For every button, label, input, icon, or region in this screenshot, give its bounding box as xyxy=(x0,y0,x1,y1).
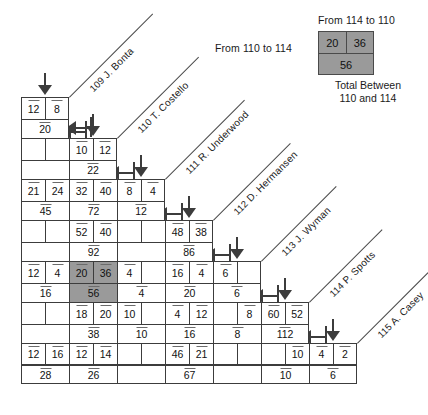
matrix-band: 524048389286 xyxy=(21,220,357,261)
matrix-cell-value: 20 xyxy=(93,302,117,324)
value-tick-mark xyxy=(100,264,111,265)
matrix-cell-value: 46 xyxy=(165,343,189,365)
value-tick-mark xyxy=(100,223,111,224)
matrix-cell-value: 10 xyxy=(69,138,93,160)
value-tick-mark xyxy=(136,286,147,287)
matrix-cell-value xyxy=(141,261,165,283)
matrix-band: 2124324084457212 xyxy=(21,179,357,220)
matrix-band-total-row: 457212 xyxy=(21,201,357,220)
matrix-cell-value: 12 xyxy=(93,138,117,160)
value-tick-mark xyxy=(28,346,39,347)
value-tick-mark xyxy=(88,327,99,328)
matrix-cell-total: 6 xyxy=(309,365,357,384)
matrix-cell-value xyxy=(21,302,45,324)
matrix-band-total-row: 22 xyxy=(21,160,357,179)
matrix-cell-value: 20 xyxy=(69,261,93,283)
matrix-band-total-row: 20 xyxy=(21,119,357,138)
matrix-cell-total: 92 xyxy=(69,242,117,261)
value-tick-mark xyxy=(52,264,63,265)
matrix-cell-value: 40 xyxy=(93,220,117,242)
matrix-band: 1216121446211042282667106 xyxy=(21,343,357,384)
value-tick-mark xyxy=(280,368,291,369)
value-tick-mark xyxy=(184,286,195,287)
matrix-cell-value: 40 xyxy=(93,179,117,201)
matrix-cell-total: 22 xyxy=(69,160,117,179)
legend-cell-b: 36 xyxy=(347,32,374,54)
value-tick-mark xyxy=(172,305,183,306)
legend-top-row: 20 36 xyxy=(319,32,373,54)
legend-bottom-row: 56 xyxy=(319,54,373,76)
value-tick-mark xyxy=(88,204,99,205)
value-tick-mark xyxy=(280,327,291,328)
matrix-cell-value: 60 xyxy=(261,302,285,324)
matrix-cell-total: 20 xyxy=(21,119,69,138)
value-tick-mark xyxy=(136,327,147,328)
matrix-cell-value: 4 xyxy=(45,261,69,283)
matrix-cell-value xyxy=(117,343,141,365)
matrix-cell-total: 6 xyxy=(213,283,261,302)
value-tick-mark xyxy=(292,346,303,347)
value-tick-mark xyxy=(148,182,159,183)
matrix-cell-value: 4 xyxy=(141,179,165,201)
matrix-cell-value: 4 xyxy=(309,343,333,365)
value-tick-mark xyxy=(52,346,63,347)
matrix-cell-value xyxy=(21,220,45,242)
matrix-band-detail-row: 128 xyxy=(21,97,357,119)
matrix-cell-total: 4 xyxy=(117,283,165,302)
matrix-band-detail-row: 2124324084 xyxy=(21,179,357,201)
matrix-band: 101222 xyxy=(21,138,357,179)
value-tick-mark xyxy=(52,182,63,183)
value-tick-mark xyxy=(196,264,207,265)
value-tick-mark xyxy=(88,245,99,246)
matrix-cell-value xyxy=(21,138,45,160)
value-tick-mark xyxy=(76,305,87,306)
matrix-cell-value: 12 xyxy=(69,343,93,365)
value-tick-mark xyxy=(196,223,207,224)
value-tick-mark xyxy=(172,264,183,265)
legend-top-label: From 114 to 110 xyxy=(318,14,395,26)
value-tick-mark xyxy=(76,346,87,347)
matrix-cell-value xyxy=(45,302,69,324)
matrix-band-detail-row: 1216121446211042 xyxy=(21,343,357,365)
matrix-cell-total: 20 xyxy=(165,283,213,302)
matrix-cell-value: 52 xyxy=(285,302,309,324)
matrix-cell-total: 16 xyxy=(21,283,69,302)
matrix-cell-total: 10 xyxy=(117,324,165,343)
matrix-cell-value xyxy=(213,302,237,324)
value-tick-mark xyxy=(76,223,87,224)
matrix-cell-total: 8 xyxy=(213,324,261,343)
value-tick-mark xyxy=(28,182,39,183)
value-tick-mark xyxy=(124,305,135,306)
matrix-cell-value xyxy=(237,343,261,365)
matrix-band-detail-row: 52404838 xyxy=(21,220,357,242)
value-tick-mark xyxy=(76,141,87,142)
matrix-cell-value: 48 xyxy=(165,220,189,242)
value-tick-mark xyxy=(136,204,147,205)
matrix-cell-value xyxy=(237,261,261,283)
matrix-band-detail-row: 18201041286052 xyxy=(21,302,357,324)
value-tick-mark xyxy=(124,264,135,265)
matrix-cell-value: 12 xyxy=(189,302,213,324)
matrix-cell-total: 112 xyxy=(261,324,309,343)
matrix-cell-total: 28 xyxy=(21,365,69,384)
matrix-band-total-row: 9286 xyxy=(21,242,357,261)
matrix-cell-total: 56 xyxy=(69,283,117,302)
value-tick-mark xyxy=(340,346,351,347)
diagonal-line-109 xyxy=(69,14,153,98)
matrix-cell-value xyxy=(261,343,285,365)
matrix-cell-value xyxy=(213,343,237,365)
matrix-cell-total: 45 xyxy=(21,201,69,220)
matrix-band-detail-row: 124203641646 xyxy=(21,261,357,283)
matrix-band-total-row: 3810168112 xyxy=(21,324,357,343)
diagonal-line-115 xyxy=(357,272,428,343)
from-to-matrix: 1282010122221243240844572125240483892861… xyxy=(21,97,357,384)
value-tick-mark xyxy=(172,223,183,224)
matrix-cell-total xyxy=(21,160,69,179)
matrix-cell-value: 21 xyxy=(21,179,45,201)
value-tick-mark xyxy=(328,368,339,369)
matrix-cell-value: 10 xyxy=(285,343,309,365)
matrix-cell-total: 26 xyxy=(69,365,117,384)
matrix-cell-total xyxy=(21,242,69,261)
matrix-cell-total: 86 xyxy=(165,242,213,261)
matrix-cell-value: 12 xyxy=(21,343,45,365)
